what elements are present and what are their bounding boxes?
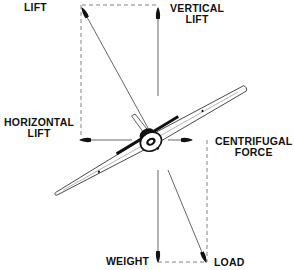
label-vertical-lift: VERTICAL LIFT	[170, 3, 224, 25]
label-horizontal-lift: HORIZONTAL LIFT	[4, 117, 74, 139]
label-centrifugal-force: CENTRIFUGAL FORCE	[215, 136, 292, 158]
load-arrow	[168, 170, 206, 262]
force-diagram: LIFT VERTICAL LIFT HORIZONTAL LIFT CENTR…	[0, 0, 294, 270]
label-lift: LIFT	[24, 2, 47, 13]
label-load: LOAD	[214, 257, 245, 268]
lift-arrow	[82, 8, 148, 128]
label-weight: WEIGHT	[106, 256, 149, 267]
